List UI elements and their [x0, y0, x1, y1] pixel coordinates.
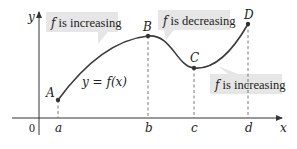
tick-a-label: a	[55, 121, 62, 135]
origin-label: 0	[29, 121, 35, 135]
callout-decreasing: f is decreasing	[158, 10, 236, 40]
tick-b-label: b	[145, 121, 153, 135]
tick-c-label: c	[191, 121, 198, 135]
curve-equation-label: y = f(x)	[81, 75, 127, 89]
point-d-label: D	[243, 8, 254, 22]
diagram-canvas: f is increasing f is decreasing f is inc…	[0, 0, 297, 149]
point-a-label: A	[45, 86, 55, 100]
point-a-marker	[56, 98, 60, 102]
point-c-marker	[192, 66, 196, 70]
svg-text:f is increasing: f is increasing	[214, 78, 286, 92]
x-axis-label: x	[280, 121, 287, 135]
point-d-marker	[246, 22, 250, 26]
callout-increasing-left: f is increasing	[46, 12, 122, 44]
svg-text:f is decreasing: f is decreasing	[162, 14, 236, 28]
point-c-label: C	[190, 51, 199, 65]
dashed-guides	[58, 24, 248, 118]
svg-text:f is increasing: f is increasing	[50, 16, 122, 30]
tick-d-label: d	[245, 121, 253, 135]
point-b-marker	[146, 34, 150, 38]
point-b-label: B	[142, 20, 152, 34]
y-axis-label: y	[27, 10, 35, 24]
function-monotonicity-diagram: f is increasing f is decreasing f is inc…	[0, 0, 297, 149]
